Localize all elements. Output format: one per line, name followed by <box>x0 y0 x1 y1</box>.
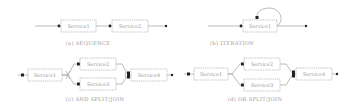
service-label: Service3 <box>87 81 109 87</box>
output-node <box>305 25 307 27</box>
join-edge <box>280 74 293 85</box>
join-edge <box>116 75 128 84</box>
composition-patterns-diagram: Service1 Service2 (a) SEQUENCE Service1 … <box>0 0 352 109</box>
input-node <box>77 63 80 66</box>
input-node <box>21 74 24 77</box>
panel-sequence: Service1 Service2 (a) SEQUENCE <box>35 20 167 46</box>
input-node <box>241 63 244 66</box>
input-node <box>58 25 61 28</box>
panel-iteration: Service1 (b) ITERATION <box>208 8 307 46</box>
input-node <box>187 73 190 76</box>
service-label: Service2 <box>119 23 141 29</box>
panel-or-split-join: Service1 Service2 Service3 Service4 (d) … <box>184 58 338 103</box>
caption: (d) OR SPLIT/JOIN <box>228 96 283 103</box>
and-join-arc <box>125 72 126 78</box>
service-label: Service1 <box>67 23 89 29</box>
caption: (c) AND SPLIT/JOIN <box>66 96 125 103</box>
service-label: Service4 <box>138 72 160 78</box>
panel-and-split-join: Service1 Service2 Service3 Service4 (c) … <box>18 58 173 103</box>
caption: (a) SEQUENCE <box>66 40 110 46</box>
output-node <box>165 25 167 27</box>
or-join-marker <box>292 71 295 78</box>
split-edge <box>228 74 244 85</box>
loop-node <box>256 16 259 19</box>
and-join-marker <box>127 72 130 79</box>
service-label: Service4 <box>303 71 325 77</box>
split-edge <box>62 64 80 75</box>
service-label: Service1 <box>200 71 222 77</box>
output-node <box>336 73 338 75</box>
service-label: Service1 <box>249 23 271 29</box>
service-label: Service2 <box>87 61 109 67</box>
output-node <box>171 74 173 76</box>
input-node <box>240 25 243 28</box>
input-node <box>241 84 244 87</box>
caption: (b) ITERATION <box>210 40 254 46</box>
service-label: Service1 <box>34 72 56 78</box>
input-node <box>77 83 80 86</box>
service-label: Service3 <box>251 82 273 88</box>
input-node <box>109 25 112 28</box>
service-label: Service2 <box>251 61 273 67</box>
